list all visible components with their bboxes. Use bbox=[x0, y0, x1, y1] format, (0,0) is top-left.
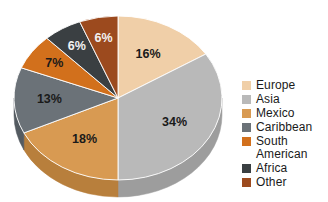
legend-swatch-icon bbox=[242, 95, 251, 104]
pie-label-other: 6% bbox=[95, 31, 113, 45]
legend-item-label: Other bbox=[256, 176, 287, 189]
legend-swatch-icon bbox=[242, 178, 251, 187]
legend-swatch-icon bbox=[242, 109, 251, 118]
chart-legend: EuropeAsiaMexicoCaribbeanSouth AmericanA… bbox=[242, 79, 328, 190]
legend-item-south-american[interactable]: South American bbox=[242, 135, 328, 161]
pie-label-europe: 16% bbox=[136, 47, 161, 61]
legend-item-africa[interactable]: Africa bbox=[242, 162, 328, 175]
legend-item-label: Asia bbox=[256, 93, 280, 106]
legend-item-caribbean[interactable]: Caribbean bbox=[242, 121, 328, 134]
legend-swatch-icon bbox=[242, 81, 251, 90]
pie-label-mexico: 18% bbox=[72, 132, 97, 146]
pie-label-africa: 6% bbox=[68, 39, 86, 53]
legend-item-asia[interactable]: Asia bbox=[242, 93, 328, 106]
pie-label-asia: 34% bbox=[162, 115, 187, 129]
legend-item-other[interactable]: Other bbox=[242, 176, 328, 189]
legend-item-europe[interactable]: Europe bbox=[242, 79, 328, 92]
legend-item-label: Mexico bbox=[256, 107, 295, 120]
pie-label-south-american: 7% bbox=[45, 56, 63, 70]
legend-item-label: Europe bbox=[256, 79, 295, 92]
legend-swatch-icon bbox=[242, 123, 251, 132]
pie-chart-figure: 16%34%18%13%7%6%6% EuropeAsiaMexicoCarib… bbox=[0, 0, 328, 202]
pie-label-caribbean: 13% bbox=[37, 92, 62, 106]
legend-swatch-icon bbox=[242, 164, 251, 173]
legend-item-mexico[interactable]: Mexico bbox=[242, 107, 328, 120]
pie-chart-plot: 16%34%18%13%7%6%6% bbox=[0, 0, 236, 202]
pie-svg: 16%34%18%13%7%6%6% bbox=[0, 0, 236, 202]
legend-item-label: Africa bbox=[256, 162, 287, 175]
legend-item-label: Caribbean bbox=[256, 121, 312, 134]
legend-item-label: South American bbox=[256, 135, 307, 161]
legend-swatch-icon bbox=[242, 137, 251, 146]
